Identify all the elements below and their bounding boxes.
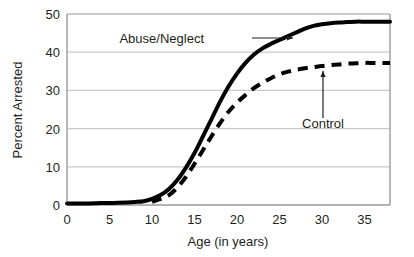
x-tick-label: 25 — [272, 212, 286, 227]
chart-container: 01020304050 05101520253035 Abuse/Neglect… — [0, 0, 414, 257]
y-tick-label: 20 — [46, 122, 60, 137]
x-tick-label: 10 — [145, 212, 159, 227]
y-tick-label: 10 — [46, 160, 60, 175]
x-tick-label: 5 — [106, 212, 113, 227]
y-tick-label: 30 — [46, 83, 60, 98]
y-axis-title: Percent Arrested — [10, 62, 25, 159]
y-tick-label: 40 — [46, 45, 60, 60]
x-tick-label: 20 — [230, 212, 244, 227]
x-tick-label: 30 — [315, 212, 329, 227]
x-tick-label: 35 — [357, 212, 371, 227]
x-axis-title: Age (in years) — [188, 234, 269, 249]
annotation-label-control: Control — [302, 116, 344, 131]
x-tick-label: 0 — [63, 212, 70, 227]
percent-arrested-line-chart: 01020304050 05101520253035 Abuse/Neglect… — [0, 0, 414, 257]
annotation-label-abuse-neglect: Abuse/Neglect — [119, 31, 204, 46]
y-tick-label: 50 — [46, 7, 60, 22]
x-tick-label: 15 — [187, 212, 201, 227]
y-tick-label: 0 — [53, 198, 60, 213]
